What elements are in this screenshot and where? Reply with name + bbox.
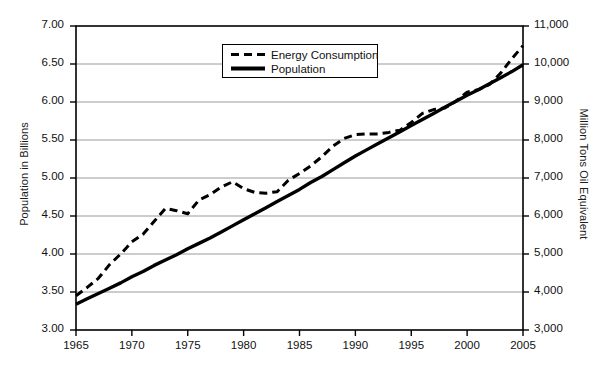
x-tick-label: 1965 [53,339,99,351]
y-right-tick-label: 3,000 [534,322,584,334]
y-right-tick-label: 7,000 [534,170,584,182]
y-left-tick-label: 6.50 [24,56,64,68]
legend: Energy Consumption Population [222,44,378,78]
y-left-tick-label: 4.50 [24,208,64,220]
y-right-tick-label: 11,000 [534,18,584,30]
y-right-tick-label: 5,000 [534,246,584,258]
x-tick-label: 2005 [500,339,546,351]
energy-population-chart: Population in Billions Million Tons Oil … [0,0,609,373]
legend-entry-energy-consumption: Energy Consumption [230,47,378,62]
dashed-line-swatch [230,49,266,60]
x-tick-label: 1990 [332,339,378,351]
gridlines-group [76,64,523,292]
legend-label-population: Population [271,63,325,75]
y-left-tick-label: 7.00 [24,18,64,30]
x-tick-label: 1980 [221,339,267,351]
y-right-tick-label: 4,000 [534,284,584,296]
x-tick-label: 1995 [388,339,434,351]
y-right-tick-label: 6,000 [534,208,584,220]
y-left-tick-label: 3.50 [24,284,64,296]
x-tick-label: 1985 [277,339,323,351]
y-left-tick-label: 3.00 [24,322,64,334]
y-right-tick-label: 10,000 [534,56,584,68]
y-left-tick-label: 5.50 [24,132,64,144]
y-left-tick-label: 5.00 [24,170,64,182]
series-line-energy-consumption [76,46,523,296]
y-left-tick-label: 6.00 [24,94,64,106]
x-tick-label: 1975 [165,339,211,351]
y-right-tick-label: 8,000 [534,132,584,144]
y-right-tick-label: 9,000 [534,94,584,106]
y-left-tick-label: 4.00 [24,246,64,258]
legend-label-energy-consumption: Energy Consumption [271,49,378,61]
legend-entry-population: Population [230,61,325,76]
x-tick-label: 1970 [109,339,155,351]
x-tick-label: 2000 [444,339,490,351]
solid-line-swatch [230,63,266,74]
